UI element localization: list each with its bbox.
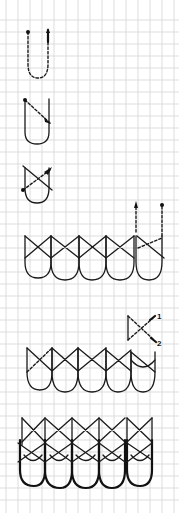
start-dot-icon — [23, 98, 27, 102]
step-2-loop-diagonal — [23, 98, 51, 144]
step-4-loop-row — [25, 201, 164, 280]
start-dot-icon — [26, 30, 30, 34]
step-6-final-pattern — [18, 418, 152, 488]
stitch-diagram: 1 2 — [0, 0, 179, 513]
marker-1-label: 1 — [157, 312, 162, 321]
arrow-up-icon — [134, 201, 138, 208]
marker-2-label: 2 — [157, 339, 162, 348]
step-3-crossed-loop — [21, 166, 52, 203]
